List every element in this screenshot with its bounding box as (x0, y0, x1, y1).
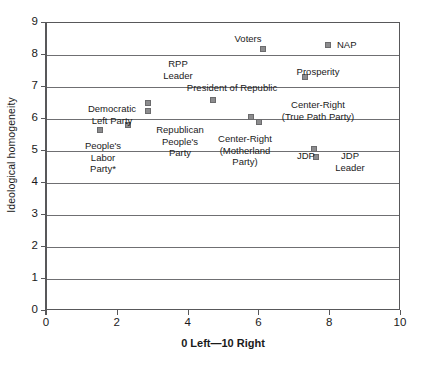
annotation-center-right-true-path: Center-Right (True Path Party) (282, 99, 355, 122)
y-axis-tick-label: 9 (16, 16, 38, 27)
annotation-line: Leader (335, 162, 365, 174)
gridline (47, 55, 399, 56)
annotation-line: Labor (85, 152, 121, 164)
annotation-democratic-left-party: Democratic Left Party (88, 103, 136, 126)
y-axis-tick-label: 3 (16, 208, 38, 219)
x-axis-title: 0 Left—10 Right (46, 337, 400, 349)
annotation-line: Prosperity (297, 66, 340, 78)
x-axis-tick-label: 2 (102, 316, 132, 328)
annotation-center-right-motherland: Center-Right (Motherland Party) (218, 133, 272, 168)
y-axis-tick-label: 7 (16, 80, 38, 91)
annotation-line: People's (156, 136, 204, 148)
annotation-line: People's (85, 140, 121, 152)
x-axis-tick-mark (258, 310, 259, 315)
annotation-line: JDP (335, 150, 365, 162)
data-point-marker (97, 127, 103, 133)
data-point-marker (210, 97, 216, 103)
scatter-chart-figure: Ideological homogeneity 0123456789 02468… (0, 0, 430, 369)
y-axis-tick-label: 1 (16, 272, 38, 283)
annotation-president-of-republic: President of Republic (187, 82, 277, 94)
annotation-line: (True Path Party) (282, 111, 355, 123)
y-axis-tick-label: 8 (16, 48, 38, 59)
annotation-rpp-leader: RPP Leader (163, 58, 193, 81)
gridline (47, 247, 399, 248)
x-axis-tick-mark (188, 310, 189, 315)
y-axis-tick-label: 4 (16, 176, 38, 187)
data-point-marker (256, 119, 262, 125)
x-axis-tick-mark (400, 310, 401, 315)
annotation-line: NAP (337, 39, 357, 51)
annotation-republican-peoples-party: Republican People's Party (156, 124, 204, 159)
data-point-marker (248, 114, 254, 120)
gridline (47, 183, 399, 184)
annotation-line: Center-Right (282, 99, 355, 111)
annotation-nap: NAP (337, 39, 357, 51)
gridline (47, 215, 399, 216)
annotation-line: Democratic (88, 103, 136, 115)
data-point-marker (145, 100, 151, 106)
annotation-line: Left Party (88, 115, 136, 127)
annotation-line: Voters (235, 33, 262, 45)
x-axis-tick-label: 0 (31, 316, 61, 328)
annotation-line: RPP (163, 58, 193, 70)
gridline (47, 279, 399, 280)
y-axis-tick-label: 2 (16, 240, 38, 251)
annotation-line: Republican (156, 124, 204, 136)
x-axis-tick-label: 10 (385, 316, 415, 328)
y-axis-title: Ideological homogeneity (2, 0, 20, 310)
x-axis-tick-label: 8 (314, 316, 344, 328)
annotation-line: Party (156, 147, 204, 159)
y-axis-tick-label: 5 (16, 144, 38, 155)
data-point-marker (260, 46, 266, 52)
annotation-line: Center-Right (218, 133, 272, 145)
x-axis-tick-label: 6 (243, 316, 273, 328)
annotation-peoples-labor-party: People's Labor Party* (85, 140, 121, 175)
annotation-jdp: JDP (297, 150, 315, 162)
x-axis-tick-mark (329, 310, 330, 315)
annotation-prosperity: Prosperity (297, 66, 340, 78)
annotation-voters: Voters (235, 33, 262, 45)
annotation-line: JDP (297, 150, 315, 162)
annotation-line: Party* (85, 163, 121, 175)
x-axis-tick-mark (46, 310, 47, 315)
data-point-marker (325, 42, 331, 48)
x-axis-tick-label: 4 (173, 316, 203, 328)
annotation-line: Leader (163, 70, 193, 82)
x-axis-tick-mark (117, 310, 118, 315)
x-axis-title-text: 0 Left—10 Right (181, 337, 265, 349)
annotation-line: President of Republic (187, 82, 277, 94)
data-point-marker (145, 108, 151, 114)
annotation-jdp-leader: JDP Leader (335, 150, 365, 173)
y-axis-tick-label: 6 (16, 112, 38, 123)
annotation-line: Party) (218, 156, 272, 168)
annotation-line: (Motherland (218, 145, 272, 157)
y-axis-tick-label: 0 (16, 304, 38, 315)
